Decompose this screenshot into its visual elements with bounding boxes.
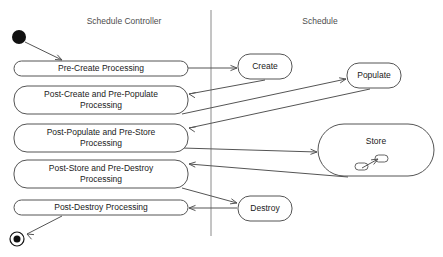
activity-node-label-create: Create [252, 61, 278, 71]
activity-node-label-post-populate-and-pre-store-processing: Processing [80, 138, 122, 148]
activity-node-label-post-populate-and-pre-store-processing: Post-Populate and Pre-Store [47, 127, 156, 137]
activity-node-post-destroy-processing[interactable]: Post-Destroy Processing [14, 200, 188, 215]
flow-pre-create-to-create [188, 65, 237, 70]
flow-populate-to-post-populate-arrowhead [189, 127, 196, 132]
activity-node-shape-store[interactable] [318, 124, 434, 176]
flow-post-create-to-populate-line [182, 79, 346, 114]
uml-activity-diagram: Schedule ControllerSchedule Pre-Create P… [0, 0, 443, 257]
activity-node-post-create-and-pre-populate-processing[interactable]: Post-Create and Pre-PopulateProcessing [14, 86, 188, 114]
activity-node-label-destroy: Destroy [250, 203, 280, 213]
flow-populate-to-post-populate-line [189, 89, 370, 128]
activity-node-populate[interactable]: Populate [347, 63, 401, 88]
flow-post-populate-to-store [182, 148, 317, 154]
lane-titles: Schedule ControllerSchedule [87, 16, 338, 26]
activity-node-pre-create-processing[interactable]: Pre-Create Processing [14, 61, 188, 76]
flow-post-create-to-populate [182, 78, 346, 114]
activity-node-label-post-store-and-pre-destroy-processing: Processing [80, 174, 122, 184]
diagram-canvas: Schedule ControllerSchedule Pre-Create P… [0, 0, 443, 257]
lane-title-schedule-controller: Schedule Controller [87, 16, 162, 26]
activity-node-post-store-and-pre-destroy-processing[interactable]: Post-Store and Pre-DestroyProcessing [14, 160, 188, 188]
activity-node-label-post-create-and-pre-populate-processing: Processing [80, 100, 122, 110]
subactivity-left-box [355, 163, 368, 170]
flow-destroy-to-post-destroy [189, 205, 237, 210]
lane-title-schedule: Schedule [302, 16, 338, 26]
activity-node-destroy[interactable]: Destroy [238, 196, 292, 221]
flow-initial-to-pre-create [25, 42, 62, 60]
activity-node-label-post-store-and-pre-destroy-processing: Post-Store and Pre-Destroy [49, 163, 154, 173]
flow-initial-to-pre-create-line [25, 42, 62, 60]
activity-node-label-store: Store [366, 136, 387, 146]
flow-post-destroy-to-final-arrowhead [27, 234, 34, 239]
activity-nodes: Pre-Create ProcessingPost-Create and Pre… [14, 54, 434, 221]
flow-post-populate-to-store-line [182, 148, 317, 152]
activity-node-label-post-create-and-pre-populate-processing: Post-Create and Pre-Populate [44, 89, 158, 99]
final-node-dot [14, 236, 21, 243]
activity-node-label-pre-create-processing: Pre-Create Processing [58, 63, 144, 73]
activity-node-label-post-destroy-processing: Post-Destroy Processing [54, 202, 148, 212]
flow-post-store-to-destroy [182, 188, 237, 204]
activity-node-post-populate-and-pre-store-processing[interactable]: Post-Populate and Pre-StoreProcessing [14, 124, 188, 152]
flow-post-destroy-to-final-line [27, 216, 62, 234]
activity-node-label-populate: Populate [357, 70, 391, 80]
flow-create-to-post-create [189, 80, 265, 98]
initial-node [12, 30, 26, 44]
activity-node-create[interactable]: Create [238, 54, 292, 79]
flow-post-destroy-to-final [27, 216, 62, 239]
activity-node-store[interactable]: Store [318, 124, 434, 176]
flow-post-store-to-destroy-line [182, 188, 237, 203]
flow-create-to-post-create-line [189, 80, 265, 94]
